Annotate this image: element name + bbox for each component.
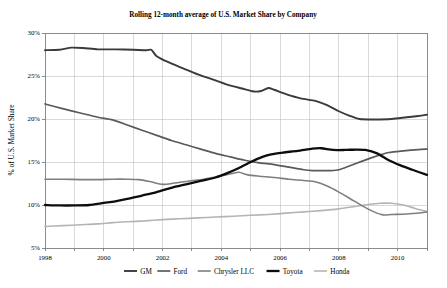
y-tick-label: 30% xyxy=(28,29,41,36)
legend-label: GM xyxy=(140,268,152,276)
x-tick-label: 2004 xyxy=(215,254,229,261)
legend-label: Honda xyxy=(330,268,350,276)
y-axis-label: % of U.S. Market Share xyxy=(7,104,16,176)
y-tick-label: 5% xyxy=(31,244,40,251)
chart-container: Rolling 12-month average of U.S. Market … xyxy=(0,0,447,288)
chart-background xyxy=(0,0,447,288)
legend-label: Toyota xyxy=(283,268,304,276)
market-share-line-chart: Rolling 12-month average of U.S. Market … xyxy=(0,0,447,288)
x-tick-label: 2008 xyxy=(332,254,346,261)
y-tick-label: 20% xyxy=(28,115,41,122)
y-tick-label: 10% xyxy=(28,201,41,208)
x-tick-label: 1998 xyxy=(38,254,52,261)
x-tick-label: 2010 xyxy=(391,254,405,261)
x-tick-label: 2000 xyxy=(97,254,111,261)
legend-label: Ford xyxy=(174,268,188,276)
x-tick-label: 2002 xyxy=(156,254,170,261)
y-tick-label: 15% xyxy=(28,158,41,165)
legend-label: Chrysler LLC xyxy=(214,268,254,276)
chart-title: Rolling 12-month average of U.S. Market … xyxy=(129,11,317,19)
y-tick-label: 25% xyxy=(28,72,41,79)
x-tick-label: 2006 xyxy=(273,254,287,261)
